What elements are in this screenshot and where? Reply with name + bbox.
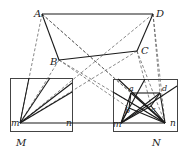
label-d: d [162,84,167,93]
label-c: c [151,105,156,114]
line-Mm-P3 [20,83,72,123]
geometry-diagram: ADBCmnmnadbcMN [0,0,189,155]
dashed-line-D-d [153,14,160,93]
box-M [11,79,73,132]
label-A: A [33,8,41,19]
label-b: b [125,106,130,115]
label-M: M [15,137,27,148]
label-n: n [66,118,72,128]
diagram-svg: ADBCmnmnadbcMN [0,0,189,155]
label-D: D [155,8,164,19]
label-C: C [141,45,149,56]
line-A-B [42,14,59,60]
dashed-line-B-b [59,60,129,108]
label-n: n [170,118,176,128]
dashed-line-D-Mm [20,14,153,123]
label-m: m [11,118,20,128]
label-m: m [113,119,122,129]
label-N: N [151,137,162,148]
label-a: a [129,84,134,93]
line-Mm-P4 [20,92,72,123]
label-B: B [49,56,57,67]
dashed-line-C-c [137,51,151,106]
